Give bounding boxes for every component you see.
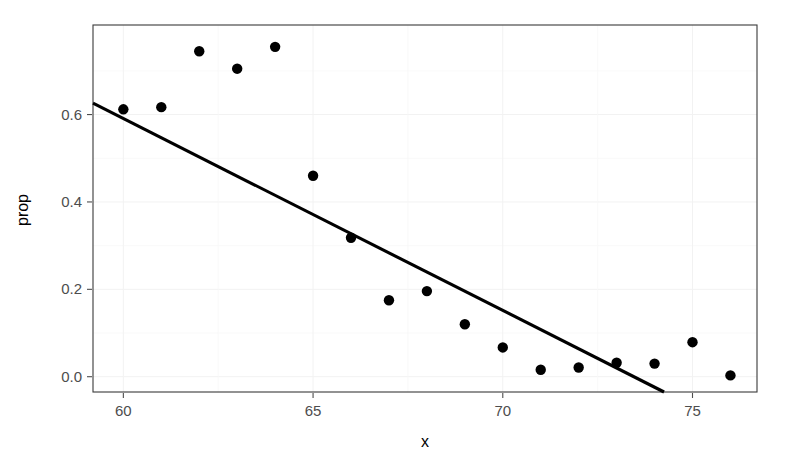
data-point xyxy=(573,362,583,372)
data-point xyxy=(194,46,204,56)
data-point xyxy=(460,319,470,329)
data-point xyxy=(346,233,356,243)
y-tick-label: 0.0 xyxy=(61,368,82,385)
data-point xyxy=(649,358,659,368)
y-tick-label: 0.4 xyxy=(61,193,82,210)
data-point xyxy=(270,42,280,52)
data-point xyxy=(422,286,432,296)
data-point xyxy=(536,365,546,375)
data-point xyxy=(118,104,128,114)
data-point xyxy=(725,370,735,380)
x-axis-title: x xyxy=(421,433,429,450)
x-tick-label: 75 xyxy=(684,402,701,419)
panel-background xyxy=(93,25,757,392)
x-tick-label: 70 xyxy=(494,402,511,419)
x-tick-label: 65 xyxy=(305,402,322,419)
y-axis-title: prop xyxy=(14,194,31,226)
data-point xyxy=(156,102,166,112)
data-point xyxy=(687,337,697,347)
data-point xyxy=(611,358,621,368)
y-tick-label: 0.6 xyxy=(61,106,82,123)
scatter-plot-figure: 60657075 0.00.20.40.6 x prop xyxy=(0,0,791,470)
data-point xyxy=(232,63,242,73)
plot-panel xyxy=(93,25,757,392)
data-point xyxy=(498,342,508,352)
chart-canvas: 60657075 0.00.20.40.6 x prop xyxy=(0,0,791,470)
data-point xyxy=(384,295,394,305)
y-tick-label: 0.2 xyxy=(61,280,82,297)
x-tick-label: 60 xyxy=(115,402,132,419)
data-point xyxy=(308,171,318,181)
